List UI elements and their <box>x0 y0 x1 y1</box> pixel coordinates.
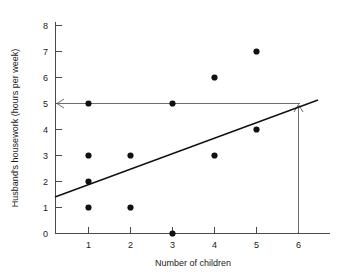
x-tick-label: 3 <box>170 240 175 250</box>
y-axis-title: Husband's housework (hours per week) <box>10 49 20 207</box>
y-tick-label: 8 <box>43 21 48 31</box>
x-tick-label: 6 <box>296 240 301 250</box>
regression-line <box>55 100 318 197</box>
y-tick-label: 7 <box>43 47 48 57</box>
data-point <box>85 204 91 210</box>
y-tick-label: 4 <box>43 125 48 135</box>
y-tick-label: 3 <box>43 151 48 161</box>
data-points <box>85 48 259 236</box>
horizontal-prediction-arrow <box>57 99 300 108</box>
data-point <box>85 152 91 158</box>
data-point <box>253 48 259 54</box>
scatter-plot-figure: ••• •• ••••• ••• ••••••••••• •• ••••••••… <box>0 0 339 272</box>
x-axis-ticks <box>89 227 299 234</box>
data-point <box>127 152 133 158</box>
x-axis-tick-labels: 1 2 3 4 5 6 <box>86 240 301 250</box>
x-tick-label: 2 <box>128 240 133 250</box>
data-point <box>85 100 91 106</box>
y-tick-label: 0 <box>43 229 48 239</box>
data-point <box>127 204 133 210</box>
data-point <box>169 100 175 106</box>
data-point <box>85 178 91 184</box>
y-axis-tick-labels: 8 7 6 5 4 3 2 1 0 <box>43 21 48 239</box>
data-point <box>253 126 259 132</box>
x-tick-label: 4 <box>212 240 217 250</box>
chart-canvas: 8 7 6 5 4 3 2 1 0 1 2 3 4 5 6 Number of … <box>0 0 339 272</box>
y-tick-label: 1 <box>43 203 48 213</box>
data-point <box>211 152 217 158</box>
vertical-prediction-arrow <box>294 105 303 233</box>
y-tick-label: 6 <box>43 73 48 83</box>
y-tick-label: 5 <box>43 99 48 109</box>
y-tick-label: 2 <box>43 177 48 187</box>
x-axis-title: Number of children <box>155 258 231 268</box>
data-point <box>211 74 217 80</box>
data-point <box>169 230 175 236</box>
y-axis-ticks <box>56 26 63 208</box>
x-tick-label: 1 <box>86 240 91 250</box>
x-tick-label: 5 <box>254 240 259 250</box>
